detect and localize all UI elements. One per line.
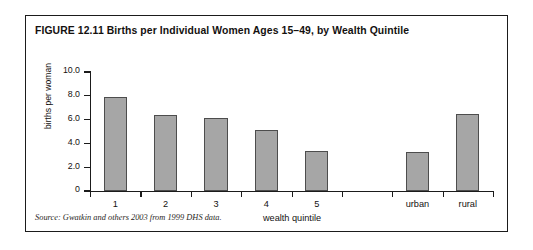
y-tick-label: 2.0 [68, 161, 80, 171]
x-tick-label: 3 [213, 199, 218, 209]
y-tick-label: 10.0 [63, 65, 80, 75]
chart-plot-area: births per woman 02.04.06.08.010.0 12345… [26, 45, 509, 195]
bar [154, 115, 177, 191]
bar [255, 130, 278, 191]
bar [204, 118, 227, 191]
x-tick-label: rural [459, 199, 477, 209]
y-tick: 10.0 [84, 71, 90, 72]
figure-container: FIGURE 12.11 Births per Individual Women… [25, 15, 508, 232]
y-tick: 4.0 [84, 143, 90, 144]
y-tick-label: 0 [75, 184, 80, 194]
x-tick [241, 192, 242, 197]
y-axis-line [90, 71, 91, 192]
y-tick: 2.0 [84, 167, 90, 168]
x-tick [342, 192, 343, 197]
bar [456, 114, 479, 191]
x-tick [90, 192, 91, 197]
source-note: Source: Gwatkin and others 2003 from 199… [35, 213, 222, 222]
y-tick: 8.0 [84, 95, 90, 96]
bar [305, 151, 328, 191]
y-axis-title: births per woman [43, 46, 53, 146]
x-tick-label: 4 [264, 199, 269, 209]
x-tick [392, 192, 393, 197]
y-tick-label: 6.0 [68, 113, 80, 123]
x-tick [140, 192, 141, 197]
x-tick [191, 192, 192, 197]
x-tick [493, 192, 494, 197]
bar [406, 152, 429, 191]
y-tick: 6.0 [84, 119, 90, 120]
x-axis-title: wealth quintile [263, 213, 321, 223]
x-tick-label: urban [406, 199, 430, 209]
y-tick-label: 4.0 [68, 137, 80, 147]
figure-title: FIGURE 12.11 Births per Individual Women… [35, 25, 409, 36]
x-tick-label: 5 [314, 199, 319, 209]
bar [104, 97, 127, 191]
x-tick [443, 192, 444, 197]
y-tick-label: 8.0 [68, 89, 80, 99]
x-tick-label: 2 [163, 199, 168, 209]
x-tick [292, 192, 293, 197]
x-tick-label: 1 [113, 199, 118, 209]
